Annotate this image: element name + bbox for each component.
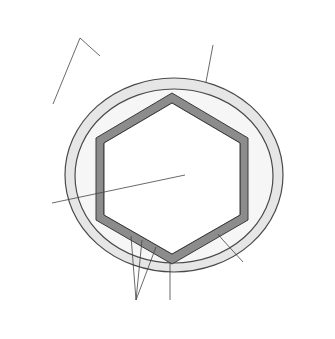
virus-illustration bbox=[0, 0, 335, 339]
virus-diagram bbox=[0, 0, 335, 339]
